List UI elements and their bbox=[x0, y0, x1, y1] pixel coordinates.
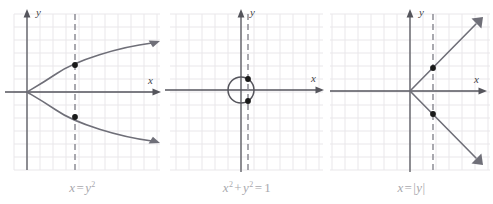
caption-rhs-exponent: 2 bbox=[91, 180, 95, 189]
intersection-point bbox=[430, 65, 436, 71]
intersection-point bbox=[430, 111, 436, 117]
panel-parabola: y x x=y2 bbox=[0, 0, 165, 204]
caption-lhs: x bbox=[397, 180, 403, 195]
panel-absolute-value: y x x=|y| bbox=[330, 0, 493, 204]
circle-plot: y x bbox=[165, 0, 330, 178]
caption-absolute-value: x=|y| bbox=[330, 180, 493, 196]
y-axis-label: y bbox=[249, 6, 255, 18]
caption-parabola: x=y2 bbox=[0, 180, 165, 196]
figure-container: y x x=y2 bbox=[0, 0, 493, 204]
x-axis-label: x bbox=[310, 72, 316, 84]
x-axis-label: x bbox=[147, 74, 153, 86]
caption-mid-exponent: 2 bbox=[249, 180, 253, 189]
y-axis-label: y bbox=[35, 6, 41, 18]
caption-bar-right: | bbox=[423, 180, 426, 195]
intersection-point bbox=[72, 62, 78, 68]
intersection-point bbox=[245, 76, 251, 82]
caption-operator: = bbox=[404, 180, 414, 195]
y-axis bbox=[24, 9, 31, 170]
caption-rhs: 1 bbox=[263, 180, 272, 195]
caption-operator-equals: = bbox=[254, 180, 264, 195]
x-axis bbox=[330, 88, 487, 95]
parabola-plot: y x bbox=[0, 0, 165, 178]
panel-circle: y x x2+y2=1 bbox=[165, 0, 330, 204]
intersection-point bbox=[72, 114, 78, 120]
x-axis-label: x bbox=[473, 73, 479, 85]
caption-operator: = bbox=[75, 180, 85, 195]
caption-operator-plus: + bbox=[233, 180, 243, 195]
absolute-value-plot: y x bbox=[330, 0, 493, 178]
intersection-point bbox=[245, 98, 251, 104]
grid-lines bbox=[170, 14, 323, 170]
y-axis-label: y bbox=[418, 6, 424, 18]
caption-circle: x2+y2=1 bbox=[165, 180, 330, 196]
